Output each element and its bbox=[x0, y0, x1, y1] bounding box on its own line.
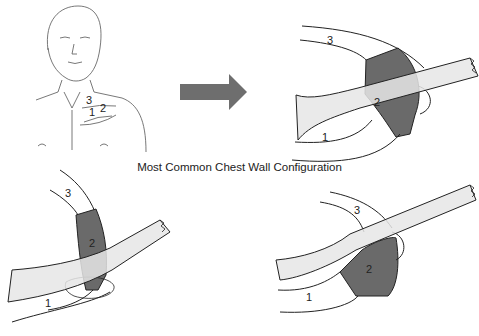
top-right-label-3: 3 bbox=[327, 34, 333, 46]
bottom-left-label-1: 1 bbox=[45, 297, 51, 309]
top-right-label-1: 1 bbox=[322, 131, 328, 143]
top-right-diagram bbox=[292, 26, 478, 161]
bottom-right-label-2: 2 bbox=[366, 263, 372, 275]
bottom-left-label-2: 2 bbox=[89, 237, 95, 249]
bottom-right-label-1: 1 bbox=[306, 291, 312, 303]
sketch-label-1: 1 bbox=[89, 106, 95, 118]
bottom-right-label-3: 3 bbox=[354, 204, 360, 216]
figure-caption: Most Common Chest Wall Configuration bbox=[0, 161, 479, 173]
top-right-label-2: 2 bbox=[374, 96, 380, 108]
sketch-label-3: 3 bbox=[86, 94, 92, 106]
bottom-left-label-3: 3 bbox=[65, 187, 71, 199]
right-arrow-icon bbox=[180, 74, 247, 110]
patient-sketch: 3 2 1 bbox=[36, 6, 146, 152]
sketch-label-2: 2 bbox=[100, 102, 106, 114]
